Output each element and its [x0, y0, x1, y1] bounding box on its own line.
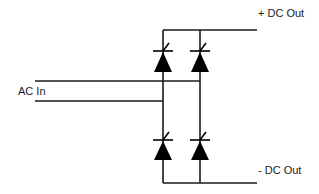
ac-in-label: AC In — [18, 86, 46, 97]
positive-dc-out-label: + DC Out — [258, 8, 304, 19]
negative-dc-out-label: - DC Out — [258, 165, 301, 176]
